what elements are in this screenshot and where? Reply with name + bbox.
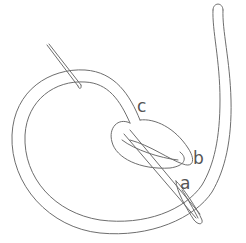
stitch-diagram: c b a xyxy=(0,0,246,243)
thread-wrap xyxy=(111,120,192,168)
thread-loop xyxy=(12,4,231,234)
label-c: c xyxy=(137,96,146,116)
label-b: b xyxy=(193,148,204,168)
label-a: a xyxy=(180,173,190,193)
